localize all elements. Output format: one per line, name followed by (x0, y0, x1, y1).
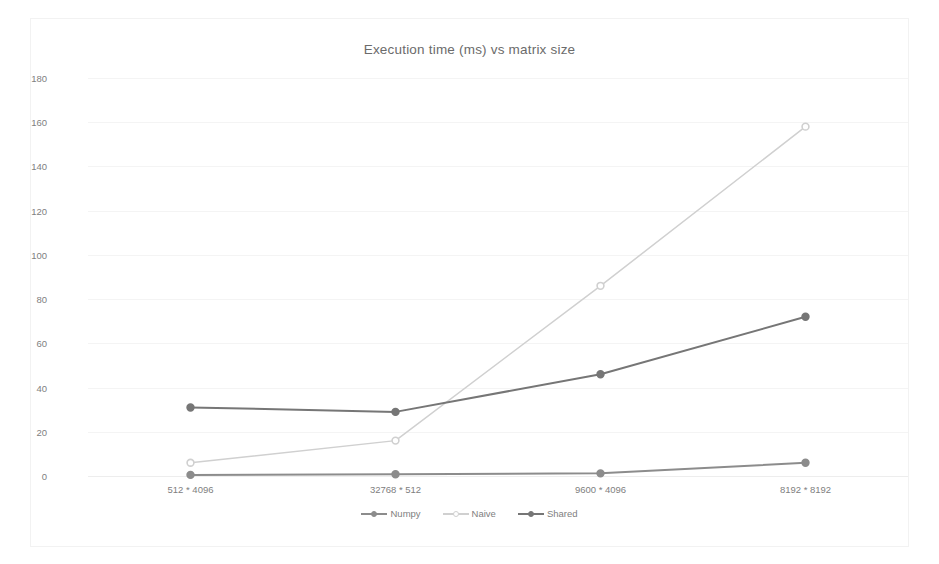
y-tick-label-180: 180 (1, 73, 47, 84)
plot-area: 020406080100120140160180 (88, 78, 908, 476)
chart-frame-top-border (30, 18, 909, 19)
chart-title: Execution time (ms) vs matrix size (0, 42, 939, 57)
data-point-shared-0 (187, 404, 194, 411)
chart-frame-right-border (908, 18, 909, 546)
chart-legend: NumpyNaiveShared (0, 508, 939, 519)
x-axis-tick-labels: 512 * 409632768 * 5129600 * 40968192 * 8… (88, 484, 908, 498)
legend-swatch-numpy-icon (361, 510, 387, 518)
data-point-shared-2 (597, 371, 604, 378)
data-point-numpy-3 (802, 459, 809, 466)
y-tick-label-40: 40 (1, 382, 47, 393)
y-tick-label-80: 80 (1, 294, 47, 305)
y-tick-label-140: 140 (1, 161, 47, 172)
y-tick-label-20: 20 (1, 426, 47, 437)
data-point-naive-0 (187, 459, 194, 466)
legend-item-numpy[interactable]: Numpy (361, 508, 420, 519)
chart-frame-left-border (30, 18, 31, 546)
legend-item-shared[interactable]: Shared (518, 508, 578, 519)
chart-container: Execution time (ms) vs matrix size 02040… (0, 0, 939, 564)
legend-label: Numpy (390, 508, 420, 519)
data-point-numpy-1 (392, 471, 399, 478)
legend-label: Naive (472, 508, 496, 519)
data-point-shared-3 (802, 313, 809, 320)
legend-label: Shared (547, 508, 578, 519)
legend-swatch-naive-icon (443, 510, 469, 518)
series-line-naive (191, 127, 806, 463)
series-line-numpy (191, 463, 806, 475)
y-tick-label-100: 100 (1, 249, 47, 260)
x-tick-label-0: 512 * 4096 (168, 484, 214, 495)
data-point-naive-2 (597, 282, 604, 289)
data-point-numpy-0 (187, 471, 194, 478)
x-tick-label-3: 8192 * 8192 (780, 484, 831, 495)
chart-frame-bottom-border (30, 546, 909, 547)
series-layer (88, 78, 908, 476)
y-tick-label-0: 0 (1, 471, 47, 482)
data-point-shared-1 (392, 408, 399, 415)
legend-item-naive[interactable]: Naive (443, 508, 496, 519)
y-tick-label-120: 120 (1, 205, 47, 216)
legend-swatch-shared-icon (518, 510, 544, 518)
y-tick-label-160: 160 (1, 117, 47, 128)
series-line-shared (191, 317, 806, 412)
x-tick-label-1: 32768 * 512 (370, 484, 421, 495)
data-point-naive-1 (392, 437, 399, 444)
y-tick-label-60: 60 (1, 338, 47, 349)
gridline-0 (88, 476, 908, 477)
data-point-numpy-2 (597, 470, 604, 477)
x-tick-label-2: 9600 * 4096 (575, 484, 626, 495)
data-point-naive-3 (802, 123, 809, 130)
